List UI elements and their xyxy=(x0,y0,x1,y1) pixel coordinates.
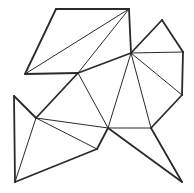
inner-segment xyxy=(78,73,108,128)
outline-segment xyxy=(108,128,182,182)
outline-segment xyxy=(97,128,108,149)
outline-segment xyxy=(162,20,183,52)
outline-segment xyxy=(129,9,131,53)
outline-segment xyxy=(14,96,36,118)
outline-segment xyxy=(25,73,78,74)
outline-segment xyxy=(131,20,162,53)
outline-segment xyxy=(14,96,15,182)
geometric-figure xyxy=(0,0,194,193)
outline-segment xyxy=(151,95,182,128)
outline-segment xyxy=(182,52,183,95)
outline-segment xyxy=(36,73,78,118)
inner-segment xyxy=(131,52,183,53)
inner-segment xyxy=(15,118,36,182)
inner-segment xyxy=(131,53,151,128)
inner-segment xyxy=(131,53,182,95)
outline-segment xyxy=(151,128,182,182)
inner-segment xyxy=(108,53,131,128)
outline-segment xyxy=(15,149,97,182)
